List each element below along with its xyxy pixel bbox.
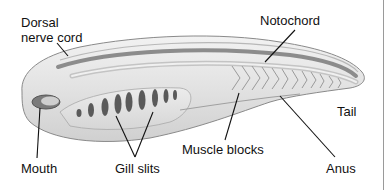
- label-dorsal-nerve-cord: Dorsal nerve cord: [21, 15, 82, 45]
- right-border: [383, 0, 384, 190]
- label-tail: Tail: [337, 104, 357, 119]
- label-notochord: Notochord: [260, 13, 320, 28]
- lancelet-diagram: Dorsal nerve cord Notochord Tail Muscle …: [0, 0, 386, 190]
- label-muscle-blocks: Muscle blocks: [182, 142, 264, 157]
- label-anus: Anus: [326, 161, 356, 176]
- label-mouth: Mouth: [21, 161, 57, 176]
- label-gill-slits: Gill slits: [115, 161, 160, 176]
